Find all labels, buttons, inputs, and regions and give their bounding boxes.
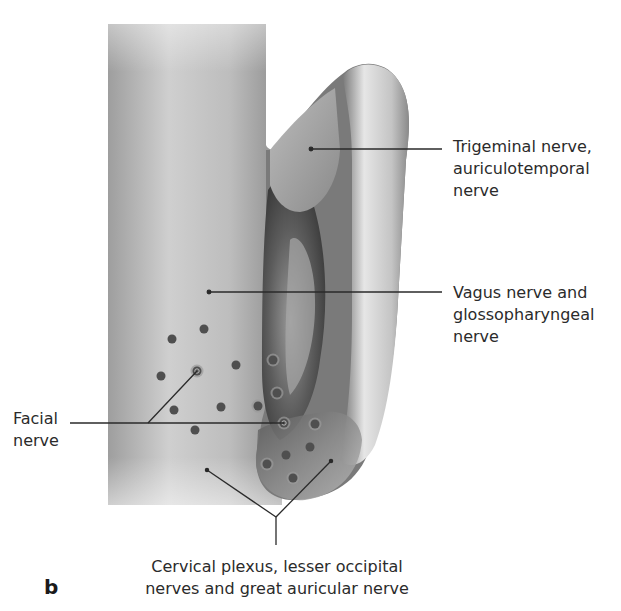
label-facial-nerve: Facial nerve xyxy=(13,408,59,452)
label-line: nerve xyxy=(453,180,592,202)
panel-letter: b xyxy=(44,575,58,599)
cervical-pointer-left xyxy=(205,468,208,471)
label-line: nerve xyxy=(453,326,594,348)
label-line: Vagus nerve and xyxy=(453,282,594,304)
label-vagus-nerve: Vagus nerve and glossopharyngeal nerve xyxy=(453,282,594,348)
stimulation-point xyxy=(263,460,272,469)
label-line: Trigeminal nerve, xyxy=(453,136,592,158)
label-trigeminal-nerve: Trigeminal nerve, auriculotemporal nerve xyxy=(453,136,592,202)
label-line: Cervical plexus, lesser occipital xyxy=(143,556,411,578)
stimulation-point xyxy=(157,372,166,381)
label-cervical-plexus: Cervical plexus, lesser occipital nerves… xyxy=(143,556,411,600)
vagus-pointer-dot xyxy=(207,290,211,294)
cervical-pointer-right xyxy=(329,459,332,462)
stimulation-point xyxy=(170,406,179,415)
stimulation-point xyxy=(217,403,226,412)
trigeminal-pointer-dot xyxy=(309,147,313,151)
stimulation-point xyxy=(311,420,320,429)
label-line: glossopharyngeal xyxy=(453,304,594,326)
label-line: auriculotemporal xyxy=(453,158,592,180)
label-line: Facial xyxy=(13,408,59,430)
stimulation-point xyxy=(273,389,282,398)
stimulation-point xyxy=(289,474,298,483)
stimulation-point xyxy=(254,402,263,411)
stimulation-point xyxy=(191,426,200,435)
stimulation-point xyxy=(282,451,291,460)
stimulation-point xyxy=(232,361,241,370)
label-line: nerve xyxy=(13,430,59,452)
label-line: nerves and great auricular nerve xyxy=(143,578,411,600)
stimulation-point xyxy=(200,325,209,334)
stimulation-point xyxy=(269,356,278,365)
stimulation-point xyxy=(306,443,315,452)
stimulation-point xyxy=(168,335,177,344)
